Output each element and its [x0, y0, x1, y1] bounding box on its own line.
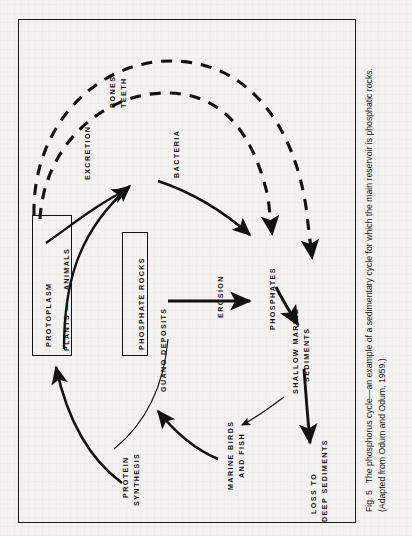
label-deep-sediments: DEEP SEDIMENTS [322, 439, 329, 522]
label-protein: PROTEIN [123, 456, 130, 498]
figure-caption-text: The phosphorus cycle—an example of a sed… [364, 68, 387, 512]
flow-bacteria-to-phosphates [158, 181, 250, 235]
label-marine-birds: MARINE BIRDS [228, 421, 235, 490]
label-protoplasm: PROTOPLASM [45, 283, 53, 347]
flow-phosphates-to-marine-birds [242, 397, 284, 425]
label-and-fish: AND FISH [239, 433, 246, 478]
label-erosion: EROSION [218, 275, 225, 318]
label-teeth: TEETH [121, 77, 128, 108]
label-bacteria: BACTERIA [174, 130, 181, 178]
figure-number: Fig. 5 [364, 490, 374, 512]
figure-caption: Fig. 5The phosphorus cycle—an example of… [363, 42, 389, 512]
label-phosphate-rocks: PHOSPHATE ROCKS [138, 257, 146, 350]
flow-marine-birds-to-guano [158, 411, 218, 459]
label-guano-deposits: GUANO DEPOSITS [161, 307, 168, 392]
flow-protoplasm-to-bacteria [64, 186, 130, 349]
label-synthesis: SYNTHESIS [134, 453, 141, 506]
label-loss-to: LOSS TO [311, 473, 318, 514]
label-shallow-marine: SHALLOW MARINE [293, 308, 300, 394]
flow-excretion-dashed [40, 93, 272, 233]
label-sediments: SEDIMENTS [304, 328, 311, 382]
flow-protein-synthesis-to-protoplasm [56, 367, 122, 483]
label-phosphates: PHOSPHATES [270, 267, 277, 330]
label-plants-animals: PLANTS —→ ANIMALS [63, 248, 71, 351]
label-bones: BONES [110, 76, 117, 108]
label-excretion: EXCRETION [85, 126, 92, 180]
